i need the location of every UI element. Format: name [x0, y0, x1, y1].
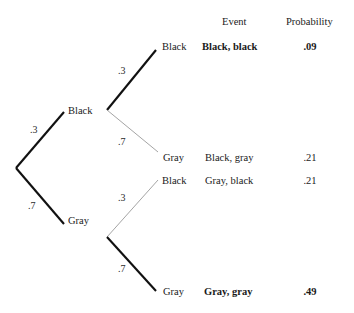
- branch-prob-black-black: .3: [118, 65, 126, 76]
- node-label-gray-black: Black: [162, 175, 187, 186]
- probability-column-header: Probability: [286, 16, 333, 27]
- branch-prob-black-gray: .7: [118, 136, 126, 147]
- node-label-black-gray: Gray: [163, 152, 184, 163]
- event-cell-black-gray: Black, gray: [205, 152, 253, 163]
- event-column-header: Event: [222, 16, 247, 27]
- branch-prob-root-black: .3: [30, 124, 38, 135]
- event-cell-gray-black: Gray, black: [205, 175, 253, 186]
- branch-gray-black: [107, 180, 158, 237]
- node-label-gray-level1: Gray: [68, 215, 89, 226]
- probability-cell-gray-gray: .49: [303, 286, 316, 297]
- probability-cell-gray-black: .21: [303, 175, 316, 186]
- branch-prob-gray-black: .3: [118, 192, 126, 203]
- node-label-gray-gray: Gray: [163, 286, 184, 297]
- branch-gray-gray: [107, 237, 156, 291]
- event-cell-black-black: Black, black: [202, 41, 257, 52]
- event-cell-gray-gray: Gray, gray: [204, 286, 252, 297]
- probability-cell-black-gray: .21: [303, 152, 316, 163]
- branch-root-gray: [16, 168, 64, 224]
- branch-root-black: [16, 112, 64, 168]
- branch-prob-gray-gray: .7: [118, 263, 126, 274]
- node-label-black-black: Black: [162, 41, 187, 52]
- probability-tree-figure: Event Probability Black Gray .3 .7 Black…: [0, 0, 354, 313]
- probability-cell-black-black: .09: [303, 41, 316, 52]
- branch-black-gray: [107, 110, 158, 152]
- branch-prob-root-gray: .7: [28, 200, 36, 211]
- branch-black-black: [107, 50, 156, 110]
- node-label-black-level1: Black: [68, 105, 93, 116]
